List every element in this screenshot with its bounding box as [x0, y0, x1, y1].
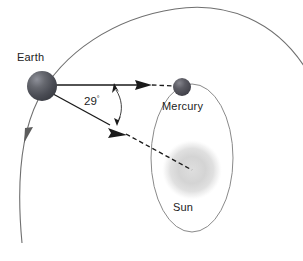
mercury-body [173, 78, 191, 96]
angle-value: 29 [84, 95, 97, 107]
earth-to-mercury-line-group [44, 80, 176, 90]
earth-to-mercury-arrowhead [135, 80, 152, 90]
astronomy-diagram: Earth Mercury Sun 29° [0, 0, 303, 261]
earth-to-mercury-dashed-segment [152, 85, 176, 86]
angle-arc-group [112, 83, 121, 126]
angle-arc-arrowhead-bottom [114, 116, 121, 126]
earth-group [27, 71, 57, 101]
earth-label: Earth [17, 51, 44, 63]
earth-body [27, 71, 57, 101]
earth-orbit-direction-arrow [24, 127, 33, 143]
angle-arc-path [116, 90, 121, 119]
earth-to-sun-arrowhead [108, 128, 127, 138]
sun-label: Sun [173, 201, 193, 213]
angle-degree-symbol: ° [97, 95, 100, 102]
angle-label: 29° [84, 95, 100, 107]
diagram-canvas: Earth Mercury Sun 29° [0, 0, 303, 261]
mercury-group [173, 78, 191, 96]
mercury-label: Mercury [162, 100, 203, 112]
